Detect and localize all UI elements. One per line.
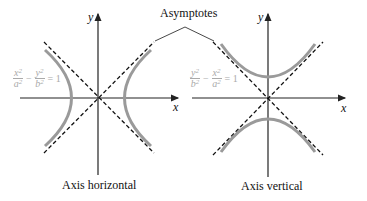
right-x-label: x (341, 101, 346, 116)
left-x-label: x (173, 100, 178, 115)
left-y-label: y (88, 10, 93, 25)
hyperbola-figure: Asymptotes y x Axis horizontal y x Axis … (0, 0, 367, 201)
left-diagram (20, 14, 178, 175)
right-equation: y2b2 − x2a2 = 1 (190, 68, 239, 89)
asymptotes-label: Asymptotes (160, 6, 217, 21)
right-y-label: y (258, 10, 263, 25)
left-equation: x2a2 − y2b2 = 1 (13, 68, 62, 89)
diagram-canvas (0, 0, 367, 201)
left-caption: Axis horizontal (62, 178, 136, 193)
right-diagram (192, 14, 345, 177)
right-caption: Axis vertical (241, 179, 303, 194)
asymptote-leaders (155, 27, 214, 41)
